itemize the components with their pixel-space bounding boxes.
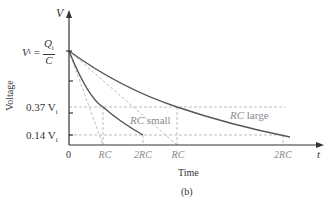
caption: (b) (181, 186, 193, 197)
y-axis-arrow (66, 10, 72, 18)
vi-label: Vi = Qi C (22, 38, 55, 66)
y-tick-014: 0.14 Vi (26, 129, 58, 144)
x-tick-2rc-large: 2RC (274, 149, 292, 160)
y-axis-symbol: V (56, 6, 63, 21)
label-rc-small: RC small (130, 114, 171, 126)
x-tick-2rc-small: 2RC (134, 149, 152, 160)
y-tick-037: 0.37 Vi (26, 101, 58, 116)
curve-rc-large (69, 51, 290, 137)
x-tick-rc-large: RC (172, 149, 185, 160)
x-tick-rc-small: RC (99, 149, 112, 160)
tangent-small (69, 51, 103, 145)
voltage-label: Voltage (4, 80, 15, 110)
label-rc-large: RC large (230, 109, 269, 121)
x-tick-zero: 0 (66, 149, 71, 160)
time-label: Time (178, 167, 199, 178)
tangent-large (69, 51, 177, 145)
x-axis-symbol: t (317, 148, 320, 160)
